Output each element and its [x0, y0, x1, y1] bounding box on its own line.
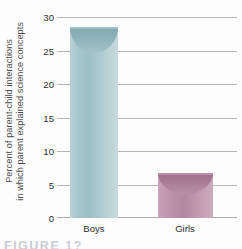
x-label-boys: Boys: [83, 223, 104, 234]
figure-root: Percent of parent-child interactions in …: [0, 0, 242, 249]
y-tick-label-0: 0: [49, 213, 54, 224]
bar-girls: [158, 173, 213, 218]
y-axis-tick-labels: 30 25 20 15 10 5 0: [30, 0, 57, 249]
gridline-30: [57, 17, 237, 18]
y-tick-label-5: 5: [49, 179, 54, 190]
plot-area: [57, 17, 237, 218]
y-axis-title: Percent of parent-child interactions in …: [0, 0, 30, 222]
bar-girls-top-rim: [158, 173, 213, 175]
y-tick-label-25: 25: [43, 45, 54, 56]
y-axis-title-line-1: Percent of parent-child interactions: [5, 39, 14, 183]
y-tick-label-15: 15: [43, 112, 54, 123]
bar-boys-top-rim: [70, 27, 118, 29]
figure-caption: FIGURE 1?: [4, 240, 83, 249]
bar-boys: [70, 27, 118, 218]
y-tick-label-20: 20: [43, 79, 54, 90]
x-label-girls: Girls: [175, 223, 195, 234]
x-axis-category-labels: Boys Girls: [57, 221, 237, 237]
y-tick-label-10: 10: [43, 146, 54, 157]
y-tick-label-30: 30: [43, 12, 54, 23]
bar-boys-body: [70, 27, 118, 218]
y-axis-title-line-2: in which parent explained science concep…: [16, 22, 25, 201]
